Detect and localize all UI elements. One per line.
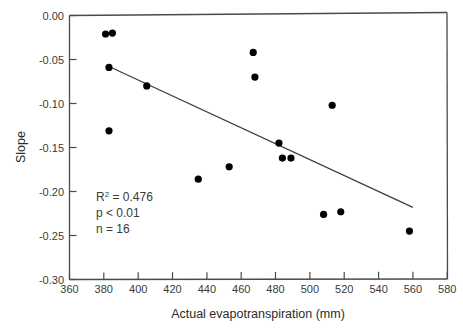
data-point — [406, 228, 413, 235]
y-tick-label: -0.05 — [39, 54, 64, 66]
y-tick-label: 0.00 — [43, 10, 64, 22]
x-axis-ticks — [70, 272, 448, 280]
chart-svg: 0.00 -0.05 -0.10 -0.15 -0.20 -0.25 -0.30… — [0, 0, 463, 336]
x-tick-label: 460 — [232, 283, 250, 295]
x-tick-label: 580 — [438, 283, 456, 295]
x-tick-label: 380 — [95, 283, 113, 295]
x-tick-label: 560 — [404, 283, 422, 295]
x-axis-tick-labels: 360 380 400 420 440 460 480 500 520 540 … — [60, 283, 456, 295]
data-point — [109, 29, 116, 36]
data-point — [251, 74, 258, 81]
data-point — [279, 154, 286, 161]
y-tick-label: -0.25 — [39, 230, 64, 242]
y-axis-title: Slope — [14, 131, 28, 163]
data-point — [226, 163, 233, 170]
trendline — [109, 67, 413, 208]
data-point — [337, 208, 344, 215]
data-point — [275, 140, 282, 147]
data-point — [287, 154, 294, 161]
y-tick-label: -0.20 — [39, 186, 64, 198]
x-tick-label: 520 — [335, 283, 353, 295]
data-point — [195, 176, 202, 183]
x-tick-label: 500 — [301, 283, 319, 295]
plot-frame — [70, 13, 448, 280]
data-point — [105, 64, 112, 71]
svg-text:R2 = 0.476: R2 = 0.476 — [96, 190, 153, 204]
data-point — [250, 49, 257, 56]
y-axis-tick-labels: 0.00 -0.05 -0.10 -0.15 -0.20 -0.25 -0.30 — [39, 10, 64, 286]
data-point — [102, 30, 109, 37]
x-tick-label: 440 — [198, 283, 216, 295]
stats-annotation: R2 = 0.476 p < 0.01 n = 16 — [96, 190, 153, 236]
data-point — [320, 211, 327, 218]
data-point — [143, 82, 150, 89]
x-tick-label: 480 — [266, 283, 284, 295]
y-axis-ticks — [70, 16, 77, 280]
x-axis-title: Actual evapotranspiration (mm) — [171, 307, 345, 321]
data-point — [105, 127, 112, 134]
r-squared-label: R — [96, 190, 105, 204]
p-value-label: p < 0.01 — [96, 206, 140, 220]
scatter-plot-figure: 0.00 -0.05 -0.10 -0.15 -0.20 -0.25 -0.30… — [0, 0, 463, 336]
sample-size-label: n = 16 — [96, 222, 130, 236]
y-tick-label: -0.10 — [39, 98, 64, 110]
x-tick-label: 360 — [60, 283, 78, 295]
y-tick-label: -0.15 — [39, 142, 64, 154]
x-tick-label: 400 — [129, 283, 147, 295]
data-point — [329, 102, 336, 109]
x-tick-label: 540 — [369, 283, 387, 295]
r-squared-value: = 0.476 — [109, 190, 153, 204]
x-tick-label: 420 — [163, 283, 181, 295]
